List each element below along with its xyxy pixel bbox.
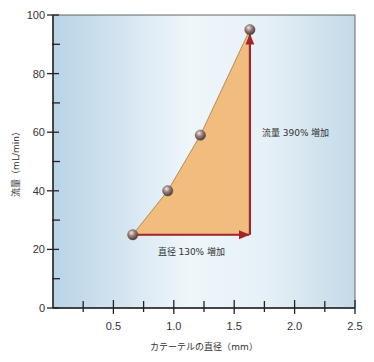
y-tick-label: 100 bbox=[27, 9, 45, 21]
x-tick-label: 0.5 bbox=[106, 320, 121, 332]
diameter-increase-label: 直径 130% 増加 bbox=[158, 246, 225, 257]
y-tick-label: 40 bbox=[33, 185, 45, 197]
y-tick-label: 60 bbox=[33, 126, 45, 138]
data-point bbox=[128, 230, 138, 240]
y-tick-label: 20 bbox=[33, 243, 45, 255]
x-tick-label: 1.0 bbox=[166, 320, 181, 332]
y-tick-label: 80 bbox=[33, 68, 45, 80]
y-axis-title: 流量（mL/min） bbox=[10, 127, 21, 197]
y-tick-label: 0 bbox=[39, 302, 45, 314]
flow-increase-label: 流量 390% 増加 bbox=[262, 127, 329, 138]
data-point bbox=[163, 186, 173, 196]
flow-vs-diameter-chart: 020406080100 0.51.01.52.02.5 直径 130% 増加 … bbox=[0, 0, 374, 362]
x-tick-label: 2.0 bbox=[287, 320, 302, 332]
x-axis-title: カテーテルの直径（mm） bbox=[150, 341, 258, 352]
data-point bbox=[245, 24, 255, 34]
x-tick-label: 2.5 bbox=[347, 320, 362, 332]
data-point bbox=[195, 130, 205, 140]
x-tick-label: 1.5 bbox=[227, 320, 242, 332]
